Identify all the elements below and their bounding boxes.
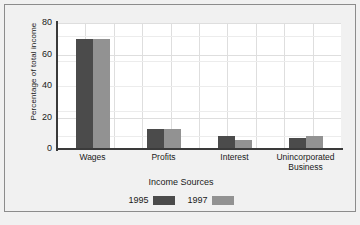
bar-group — [199, 23, 270, 149]
bar-group — [270, 23, 341, 149]
bar-group — [57, 23, 128, 149]
legend-item: 1995 — [128, 195, 174, 205]
legend-item: 1997 — [188, 195, 234, 205]
y-axis-tick-label: 20 — [22, 112, 52, 122]
legend-swatch-1997 — [212, 196, 234, 205]
legend-label: 1995 — [128, 195, 148, 205]
chart-figure: Percentage of total income Income Source… — [0, 0, 360, 225]
category-label: UnincorporatedBusiness — [252, 152, 359, 172]
x-axis-title: Income Sources — [5, 177, 357, 187]
y-axis-tick-label: 40 — [22, 80, 52, 90]
y-axis-tick-label: 80 — [22, 17, 52, 27]
category-label-line: Unincorporated — [252, 152, 359, 162]
legend-swatch-1995 — [153, 196, 175, 205]
chart-legend: 1995 1997 — [5, 195, 357, 205]
legend-label: 1997 — [188, 195, 208, 205]
y-axis-tick-label: 60 — [22, 49, 52, 59]
plot-area — [57, 23, 341, 149]
bar-profits-1995 — [147, 129, 164, 149]
bar-wages-1997 — [93, 39, 110, 149]
category-label-line: Business — [252, 162, 359, 172]
bar-group — [128, 23, 199, 149]
x-axis-line — [56, 148, 343, 150]
bar-wages-1995 — [76, 39, 93, 149]
y-axis-line — [56, 21, 58, 151]
bar-profits-1997 — [164, 129, 181, 149]
chart-frame: Percentage of total income Income Source… — [4, 4, 356, 212]
